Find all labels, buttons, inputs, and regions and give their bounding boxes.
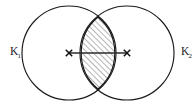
geometry-figure: K 1 K 2 xyxy=(0,0,196,106)
right-circle-label: K 2 xyxy=(181,45,193,60)
left-circle-label-subscript: 1 xyxy=(18,52,22,60)
right-circle-label-subscript: 2 xyxy=(189,52,193,60)
left-circle-label: K 1 xyxy=(10,45,22,60)
figure-canvas: K 1 K 2 xyxy=(0,0,196,106)
